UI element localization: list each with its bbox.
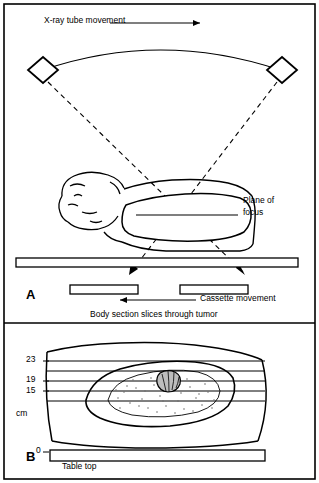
label-body-section: Body section slices through tumor xyxy=(90,310,218,319)
figure-drawing xyxy=(0,0,319,483)
cassette-left xyxy=(70,285,138,294)
label-cm-unit: cm xyxy=(16,409,27,418)
xray-tube-right xyxy=(267,57,297,83)
cassette-movement-arrow xyxy=(120,297,196,303)
patient-head-profile xyxy=(59,172,124,242)
label-cassette-movement: Cassette movement xyxy=(200,294,276,303)
label-plane-of-focus-line2: focus xyxy=(243,208,263,217)
table-slab-a xyxy=(16,258,298,267)
panel-label-a: A xyxy=(26,288,35,302)
plane-of-focus-region xyxy=(122,194,251,242)
scale-tick-15: 15 xyxy=(26,386,35,395)
panel-label-b: B xyxy=(26,450,35,464)
label-tube-movement: X-ray tube movement xyxy=(44,16,125,25)
tube-arc-path xyxy=(43,50,280,70)
scale-tick-19: 19 xyxy=(26,375,35,384)
scale-tick-23: 23 xyxy=(26,355,35,364)
xray-beam-lines xyxy=(48,82,277,272)
table-top-b xyxy=(50,450,265,461)
section-slice-lines xyxy=(47,361,265,401)
label-plane-of-focus-line1: Plane of xyxy=(243,196,274,205)
figure-container: X-ray tube movement Plane of focus Casse… xyxy=(0,0,319,483)
xray-tube-left xyxy=(28,57,58,83)
tumor-nodule xyxy=(157,371,181,392)
scale-tick-0: 0 xyxy=(36,446,41,455)
label-table-top: Table top xyxy=(62,462,97,471)
